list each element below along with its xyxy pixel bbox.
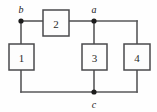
box-4[interactable]: 4 bbox=[124, 44, 150, 70]
node-a[interactable]: a bbox=[91, 4, 96, 24]
wires-group bbox=[21, 21, 137, 92]
box-3-label: 3 bbox=[92, 52, 98, 64]
component-boxes-group: 1234 bbox=[9, 10, 150, 70]
node-a-dot[interactable] bbox=[91, 18, 96, 23]
box-4-label: 4 bbox=[134, 52, 140, 64]
node-b[interactable]: b bbox=[18, 4, 23, 24]
node-c-label: c bbox=[92, 99, 97, 110]
box-2-label: 2 bbox=[53, 18, 59, 30]
node-c[interactable]: c bbox=[91, 89, 96, 109]
node-c-dot[interactable] bbox=[91, 89, 96, 94]
box-1-label: 1 bbox=[19, 52, 25, 64]
node-b-label: b bbox=[19, 4, 24, 15]
circuit-diagram-canvas: 1234 bac bbox=[0, 0, 157, 112]
box-3[interactable]: 3 bbox=[82, 44, 107, 70]
box-2[interactable]: 2 bbox=[43, 10, 69, 36]
node-a-label: a bbox=[92, 4, 97, 15]
node-b-dot[interactable] bbox=[18, 18, 23, 23]
circuit-schematic-svg: 1234 bac bbox=[0, 0, 157, 112]
box-1[interactable]: 1 bbox=[9, 44, 34, 70]
